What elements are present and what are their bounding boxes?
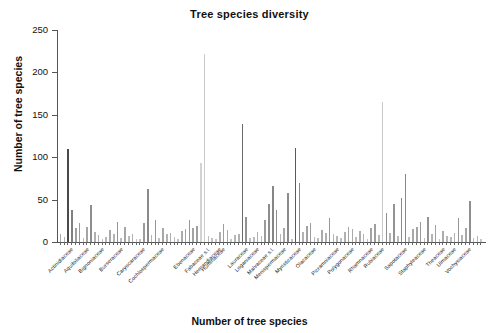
x-tick — [378, 242, 379, 245]
bar — [268, 204, 270, 242]
x-tick — [386, 242, 387, 245]
bar — [299, 183, 301, 242]
bar — [151, 235, 153, 242]
x-tick — [71, 242, 72, 245]
bar — [170, 233, 172, 242]
bar — [143, 223, 145, 242]
bar — [264, 220, 266, 242]
bar — [389, 233, 391, 242]
bar — [314, 237, 316, 242]
bar — [208, 236, 210, 242]
x-tick — [136, 242, 137, 245]
x-tick — [60, 242, 61, 245]
bar — [477, 236, 479, 242]
x-tick-label: Cochlospermaceae — [127, 246, 165, 284]
bar — [67, 149, 69, 242]
bar — [450, 237, 452, 242]
bar — [408, 237, 410, 242]
x-tick — [302, 242, 303, 245]
x-tick — [477, 242, 478, 245]
x-tick — [321, 242, 322, 245]
x-tick — [272, 242, 273, 245]
bar — [442, 231, 444, 242]
bar — [249, 238, 251, 242]
x-tick — [253, 242, 254, 245]
x-tick — [420, 242, 421, 245]
x-tick — [162, 242, 163, 245]
bar — [75, 228, 77, 242]
bar — [215, 239, 217, 242]
bar — [352, 229, 354, 242]
y-tick-label: 150 — [18, 110, 48, 120]
x-tick — [329, 242, 330, 245]
bar — [242, 124, 244, 242]
x-tick — [416, 242, 417, 245]
x-tick — [170, 242, 171, 245]
bar — [102, 239, 104, 242]
bar — [223, 224, 225, 242]
x-tick — [458, 242, 459, 245]
bar — [386, 213, 388, 242]
x-tick — [359, 242, 360, 245]
bar — [397, 236, 399, 242]
x-tick — [219, 242, 220, 245]
x-tick — [257, 242, 258, 245]
x-tick — [461, 242, 462, 245]
y-tick-label: 100 — [18, 152, 48, 162]
bar — [211, 238, 213, 242]
x-tick — [234, 242, 235, 245]
bar — [283, 228, 285, 242]
bar — [174, 237, 176, 242]
x-tick — [242, 242, 243, 245]
x-tick — [393, 242, 394, 245]
x-tick — [397, 242, 398, 245]
x-tick — [287, 242, 288, 245]
bar — [64, 237, 66, 242]
bar — [454, 233, 456, 242]
x-tick — [280, 242, 281, 245]
bar — [480, 239, 482, 242]
x-tick — [102, 242, 103, 245]
x-tick — [389, 242, 390, 245]
x-tick — [132, 242, 133, 245]
bar — [416, 227, 418, 242]
x-tick — [75, 242, 76, 245]
bar — [261, 236, 263, 242]
bar — [431, 234, 433, 242]
bar — [189, 220, 191, 242]
bar — [329, 218, 331, 242]
x-tick — [124, 242, 125, 245]
x-tick — [139, 242, 140, 245]
x-tick — [344, 242, 345, 245]
x-tick — [442, 242, 443, 245]
bar — [139, 239, 141, 242]
x-tick — [174, 242, 175, 245]
bar — [424, 238, 426, 242]
x-tick — [67, 242, 68, 245]
bar — [412, 229, 414, 242]
bar — [378, 235, 380, 242]
x-axis-label: Number of tree species — [0, 315, 499, 327]
x-tick — [276, 242, 277, 245]
bar — [306, 226, 308, 242]
y-tick-label: 250 — [18, 25, 48, 35]
x-tick — [325, 242, 326, 245]
x-tick — [408, 242, 409, 245]
y-tick — [52, 242, 58, 243]
x-tick — [370, 242, 371, 245]
bar — [435, 225, 437, 242]
x-tick — [211, 242, 212, 245]
bar — [363, 234, 365, 242]
x-tick — [439, 242, 440, 245]
x-tick — [401, 242, 402, 245]
x-tick — [291, 242, 292, 245]
bar — [276, 210, 278, 242]
x-tick — [367, 242, 368, 245]
bar — [272, 186, 274, 242]
x-tick — [480, 242, 481, 245]
x-tick — [86, 242, 87, 245]
bar — [147, 189, 149, 242]
bar — [280, 234, 282, 242]
bar — [295, 148, 297, 242]
bar — [355, 237, 357, 242]
